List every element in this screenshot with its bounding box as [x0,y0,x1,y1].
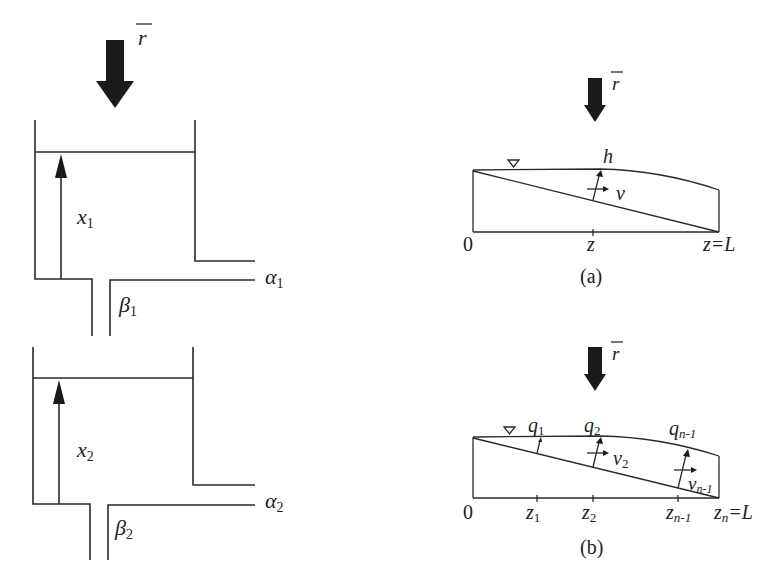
panel-b: r q1 q2 qn-1 v2 vn-1 0 z1 z2 zn-1 zn=L (… [463,342,753,559]
x1-label: x1 [76,204,94,231]
alpha2-label: α2 [265,488,284,515]
zn-end-label: zn=L [713,501,753,525]
velocity-label: v [616,182,625,204]
figure-canvas: r x1 α1 β1 x2 α2 β2 [0,0,776,586]
level-arrow-icon [55,154,67,178]
level-arrow-icon [53,380,65,404]
rainfall-arrow-icon [96,40,134,108]
water-surface-symbol-icon [508,160,519,167]
rainfall-label: r [138,25,147,50]
velocity-arrow-icon [603,186,609,192]
flow-arrow-icon [683,449,690,457]
rainfall-arrow-icon [584,347,606,391]
z-label: z [586,233,595,255]
z1-label: z1 [525,501,540,525]
q2-label: q2 [584,414,601,438]
q1-label: q1 [528,414,545,438]
caption-a: (a) [580,265,602,288]
beta2-label: β2 [114,515,133,542]
velocity-arrow-icon [603,450,609,456]
slope-line [473,438,719,498]
rainfall-label: r [612,73,620,94]
tank-model: r x1 α1 β1 x2 α2 β2 [33,24,284,560]
caption-b: (b) [580,536,603,559]
z2-label: z2 [581,501,596,525]
depth-arrow-icon [596,170,603,177]
origin-label: 0 [463,501,473,523]
v2-label: v2 [613,447,628,471]
alpha1-label: α1 [265,264,284,291]
beta1-label: β1 [118,292,137,319]
tank-1: x1 α1 β1 [35,120,284,336]
end-label: z=L [702,233,735,255]
flow-arrow-icon [596,437,603,444]
rainfall-arrow-icon [584,78,606,122]
origin-label: 0 [463,233,473,255]
zn-1-label: zn-1 [665,501,691,525]
x2-label: x2 [76,437,94,464]
vn-1-label: vn-1 [688,473,712,496]
tank-2: x2 α2 β2 [33,347,284,560]
qn-1-label: qn-1 [669,417,696,441]
slope-line [473,171,719,232]
rainfall-label: r [612,343,620,364]
water-surface-symbol-icon [504,427,515,434]
depth-label: h [603,145,613,167]
panel-a: r h v 0 z z=L (a) [463,72,735,288]
